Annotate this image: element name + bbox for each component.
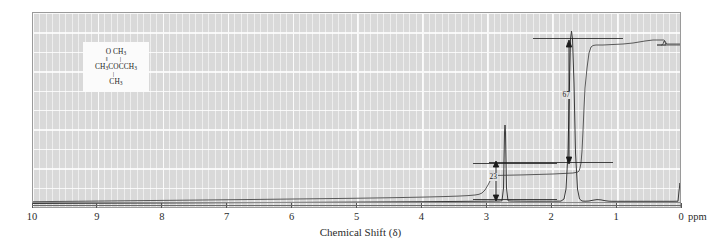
x-axis-title: Chemical Shift (δ) <box>0 226 721 238</box>
x-axis-tick-6: 6 <box>280 211 304 222</box>
x-axis-tick-2: 2 <box>539 211 563 222</box>
nmr-spectrum-figure: O CH3 ‖ | CH3COCCH3 | CH3 23 67 10987654… <box>0 0 721 248</box>
x-axis-tick-8: 8 <box>150 211 174 222</box>
x-axis-tick-1: 1 <box>604 211 628 222</box>
x-axis-tick-9: 9 <box>85 211 109 222</box>
x-axis: 109876543210 <box>0 0 721 248</box>
x-axis-tick-5: 5 <box>345 211 369 222</box>
x-axis-line-secondary <box>32 202 681 203</box>
x-axis-line <box>32 205 681 206</box>
x-axis-tick-4: 4 <box>409 211 433 222</box>
x-axis-tick-3: 3 <box>474 211 498 222</box>
x-axis-unit-label: ppm <box>688 211 707 222</box>
x-axis-tick-10: 10 <box>20 211 44 222</box>
x-axis-tick-7: 7 <box>215 211 239 222</box>
